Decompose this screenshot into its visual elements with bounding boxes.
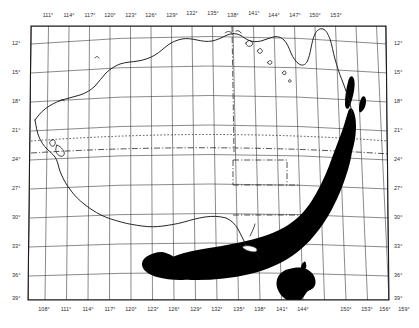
lon-label-bottom: 132° [211, 307, 223, 312]
lon-label-top: 117° [84, 13, 95, 18]
lat-label-right: 36° [394, 273, 402, 278]
lat-label-right: 12° [394, 41, 402, 46]
lon-label-top: 135° [207, 11, 219, 16]
lon-label-top: 147° [289, 13, 301, 18]
lon-label-bottom: 117° [104, 307, 115, 312]
lon-label-top: 144° [268, 13, 280, 18]
lat-label-right: 33° [394, 244, 402, 249]
lat-label-right: 39° [394, 296, 402, 301]
lon-label-top: 129° [166, 13, 178, 18]
lat-label-left: 15° [12, 70, 20, 75]
lat-label-right: 24° [394, 157, 402, 162]
lon-label-bottom: 141° [276, 307, 288, 312]
lon-label-top: 120° [104, 13, 116, 18]
lon-label-top: 132° [186, 11, 198, 16]
lon-label-bottom: 144° [297, 307, 309, 312]
lon-label-top: 153° [330, 13, 342, 18]
lon-label-top: 114° [63, 13, 74, 18]
lon-label-bottom: 108° [38, 307, 50, 312]
lat-label-right: 27° [394, 186, 402, 191]
lon-label-top: 123° [125, 13, 137, 18]
lon-label-bottom: 138° [254, 307, 266, 312]
lat-label-left: 12° [12, 41, 20, 46]
lat-label-right: 30° [394, 215, 402, 220]
lat-label-left: 18° [12, 99, 20, 104]
lat-label-left: 21° [12, 128, 20, 133]
lon-label-bottom: 156° [379, 307, 391, 312]
lat-label-left: 24° [12, 157, 20, 162]
lon-label-bottom: 159° [398, 307, 410, 312]
lon-label-bottom: 123° [147, 307, 159, 312]
lon-label-top: 111° [43, 13, 54, 18]
lon-label-bottom: 135° [233, 307, 245, 312]
lon-label-bottom: 153° [361, 307, 373, 312]
lat-label-left: 27° [12, 186, 20, 191]
lat-label-left: 39° [12, 296, 20, 301]
lat-label-right: 21° [394, 128, 402, 133]
australia-distribution-map: 111° 114° 117° 120° 123° 126° 129° 132° … [0, 0, 419, 328]
lon-label-top: 138° [227, 13, 239, 18]
lon-label-bottom: 150° [340, 307, 352, 312]
lon-label-bottom: 129° [190, 307, 202, 312]
lon-label-bottom: 120° [125, 307, 137, 312]
lon-label-top: 141° [248, 11, 260, 16]
lon-label-bottom: 111° [61, 307, 72, 312]
lon-label-bottom: 126° [168, 307, 180, 312]
lat-label-left: 33° [12, 244, 20, 249]
lat-label-right: 18° [394, 99, 402, 104]
lon-label-bottom: 114° [82, 307, 93, 312]
lon-label-top: 126° [145, 13, 157, 18]
lon-label-top: 150° [309, 13, 321, 18]
lat-label-left: 30° [12, 215, 20, 220]
lat-label-right: 15° [394, 70, 402, 75]
map-graphic [0, 0, 419, 328]
lat-label-left: 36° [12, 273, 20, 278]
